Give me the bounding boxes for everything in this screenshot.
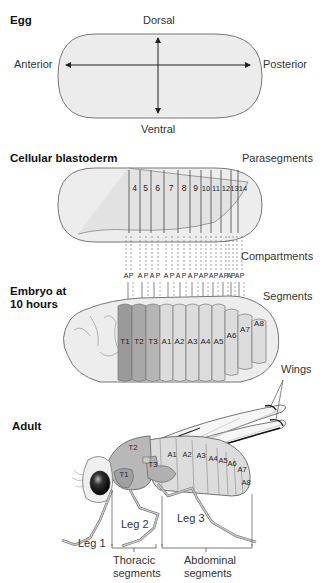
embryo-segment-label: T2 [134, 337, 144, 346]
fly-head [72, 456, 113, 502]
adult-segment-label: T2 [129, 443, 138, 452]
compartment-label: A [188, 272, 193, 279]
compartment-labels: APAPAPAPAPAPAPAPAPAPAP [124, 272, 245, 279]
leg-1-label: Leg 1 [78, 537, 106, 549]
adult-segment-label: A1 [167, 450, 176, 459]
adult-segment-label: A2 [182, 450, 191, 459]
thoracic-label-2: segments [113, 567, 161, 579]
compartment-label: P [240, 272, 245, 279]
blastoderm-title: Cellular blastoderm [10, 152, 117, 164]
adult-segment-label: A7 [237, 465, 246, 474]
compartment-label: P [129, 272, 134, 279]
compartment-label: A [150, 272, 155, 279]
parasegment-label: 7 [169, 183, 174, 193]
thoracic-label-1: Thoracic [113, 554, 155, 566]
embryo-segment-label: A4 [201, 337, 211, 346]
embryo-title-line1: Embryo at [10, 285, 66, 297]
parasegment-label: 14 [239, 184, 247, 193]
parasegment-label: 6 [155, 183, 160, 193]
compartment-label: P [144, 272, 149, 279]
adult-segment-label: A8 [241, 478, 250, 487]
embryo-segment-label: T3 [148, 337, 158, 346]
adult-segment-label: A5 [218, 456, 227, 465]
embryo-segment-label: A8 [254, 319, 264, 328]
embryo-segment-label: A5 [214, 337, 224, 346]
parasegment-label: 9 [193, 183, 198, 193]
adult-segment-label: T1 [120, 470, 129, 479]
wings-label: Wings [281, 363, 312, 375]
compartment-label: A [138, 272, 143, 279]
leg-2-label: Leg 2 [121, 518, 149, 530]
parasegment-label: 5 [143, 183, 148, 193]
parasegment-label: 4 [132, 183, 137, 193]
embryo-segment-label: A7 [240, 325, 250, 334]
embryo-segment-label: A6 [227, 331, 237, 340]
adult-title: Adult [12, 420, 41, 432]
compartments-label: Compartments [241, 250, 313, 262]
abdominal-label-2: segments [184, 567, 232, 579]
adult-segment-label: A4 [208, 454, 217, 463]
embryo-segment [238, 314, 252, 370]
parasegment-label: 10 [202, 184, 210, 193]
compartment-label: A [176, 272, 181, 279]
abdominal-label-1: Abdominal [184, 554, 236, 566]
compartment-label: P [182, 272, 187, 279]
egg-shape [58, 34, 262, 118]
embryo-segment-label: A3 [188, 337, 198, 346]
embryo-segment-label: A1 [162, 337, 172, 346]
leg-3-label: Leg 3 [177, 512, 205, 524]
embryo-segment-label: T1 [120, 337, 130, 346]
compartment-label: P [156, 272, 161, 279]
embryo-segment-label: A2 [175, 337, 185, 346]
parasegment-label: 13 [230, 184, 238, 193]
compartment-label: A [164, 272, 169, 279]
compartment-label: P [170, 272, 175, 279]
parasegment-label: 11 [212, 184, 220, 193]
segments-label: Segments [263, 290, 313, 302]
adult-segment-label: A3 [196, 451, 205, 460]
embryo-segment [225, 309, 238, 376]
parasegment-label: 12 [222, 184, 230, 193]
adult-segment-label: A6 [227, 459, 236, 468]
embryo-title-line2: 10 hours [10, 298, 58, 310]
parasegment-label: 8 [182, 183, 187, 193]
parasegments-label: Parasegments [242, 152, 313, 164]
adult-segment-label: T3 [149, 460, 158, 469]
